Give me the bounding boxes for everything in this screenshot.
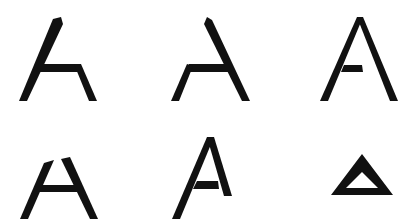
glyph-4 — [20, 157, 98, 219]
glyph-2 — [171, 17, 250, 101]
glyph-canvas — [0, 0, 418, 224]
glyph-2-right-stroke — [204, 17, 250, 101]
glyph-5 — [172, 137, 232, 219]
glyph-2-left-leg — [171, 64, 193, 101]
glyph-3-right-leg — [357, 17, 398, 101]
glyph-3-crossbar — [341, 65, 363, 72]
glyph-1 — [19, 17, 97, 101]
glyph-3 — [320, 17, 398, 101]
glyph-1-crossbar — [36, 64, 80, 72]
glyph-4-crossbar — [36, 185, 83, 192]
glyph-6 — [331, 154, 393, 195]
glyph-5-crossbar — [193, 181, 219, 189]
glyph-5-left-leg — [172, 137, 214, 219]
glyph-1-right-leg — [74, 64, 97, 101]
glyph-figure: A variant: left diagonal with crossbar a… — [0, 0, 418, 224]
glyph-1-left-stroke — [19, 17, 63, 101]
glyph-6-triangle — [331, 154, 393, 195]
glyph-2-crossbar — [186, 64, 232, 72]
glyph-3-left-leg — [320, 17, 363, 101]
